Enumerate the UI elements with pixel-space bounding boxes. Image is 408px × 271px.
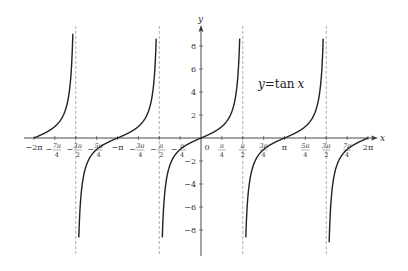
x-tick-denominator: 4 bbox=[345, 151, 349, 159]
x-tick-denominator: 4 bbox=[220, 151, 224, 159]
x-tick-label: 0 bbox=[204, 143, 209, 152]
x-tick-denominator: 2 bbox=[324, 151, 328, 159]
x-tick-label: π bbox=[282, 143, 287, 152]
x-tick-numerator: π bbox=[240, 142, 246, 150]
title-eq: = bbox=[265, 77, 275, 91]
y-tick-label: 6 bbox=[191, 65, 196, 74]
title-arg: x bbox=[298, 77, 305, 91]
x-tick-numerator: 7π bbox=[53, 142, 62, 150]
chart-title: y=tanx bbox=[257, 77, 305, 91]
x-tick-numerator: π bbox=[158, 142, 164, 150]
y-tick-label: 4 bbox=[191, 88, 196, 97]
y-tick-label: −2 bbox=[184, 157, 196, 166]
x-tick-denominator: 2 bbox=[76, 151, 80, 159]
x-tick-numerator: 5π bbox=[301, 142, 310, 150]
x-tick-label: −π bbox=[112, 143, 124, 152]
y-tick-label: 8 bbox=[191, 42, 196, 51]
axes bbox=[24, 25, 378, 256]
x-tick-denominator: 4 bbox=[97, 151, 101, 159]
x-tick-numerator: 3π bbox=[322, 142, 331, 150]
x-tick-sign: − bbox=[66, 145, 73, 154]
y-tick-label: −8 bbox=[184, 226, 196, 235]
x-tick-sign: − bbox=[129, 145, 136, 154]
tan-chart: −2π−7π4−3π2−5π4−π−3π4−π2−π40π4π23π4π5π43… bbox=[0, 0, 408, 271]
tan-branch bbox=[34, 34, 73, 138]
y-tick-label: −6 bbox=[184, 203, 196, 212]
x-tick-denominator: 2 bbox=[159, 151, 163, 159]
y-axis-label: y bbox=[197, 14, 204, 24]
x-tick-label: 2π bbox=[363, 143, 373, 152]
x-tick-denominator: 4 bbox=[55, 151, 59, 159]
y-tick-label: 2 bbox=[191, 111, 196, 120]
x-tick-numerator: π bbox=[219, 142, 225, 150]
y-tick-label: −4 bbox=[184, 180, 196, 189]
x-tick-label: −2π bbox=[25, 143, 42, 152]
x-tick-sign: − bbox=[46, 145, 53, 154]
x-axis-label: x bbox=[380, 133, 385, 143]
x-tick-denominator: 2 bbox=[241, 151, 245, 159]
x-tick-numerator: 3π bbox=[74, 142, 83, 150]
x-tick-denominator: 4 bbox=[138, 151, 142, 159]
title-fn: tan bbox=[275, 77, 295, 91]
x-tick-denominator: 4 bbox=[262, 151, 266, 159]
x-tick-numerator: 3π bbox=[136, 142, 145, 150]
x-tick-sign: − bbox=[150, 145, 157, 154]
x-tick-denominator: 4 bbox=[303, 151, 307, 159]
